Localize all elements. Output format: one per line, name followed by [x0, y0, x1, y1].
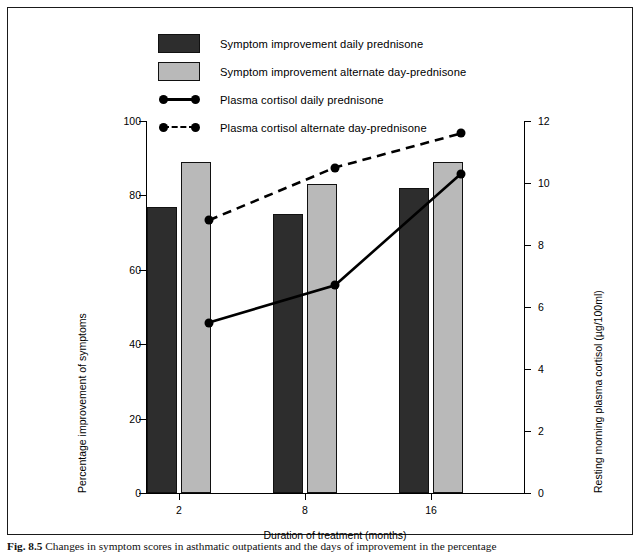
- y-axis-left-title: Percentage improvement of symptoms: [76, 313, 88, 493]
- light-bar-swatch-icon: [158, 62, 206, 81]
- y-axis-right-tick-label: 0: [538, 488, 578, 499]
- line-data-point: [205, 318, 214, 327]
- plot-area: 020406080100 024681012 2816 Duration of …: [146, 121, 524, 493]
- y-axis-right-tick: [524, 307, 531, 308]
- y-axis-right-tick: [524, 493, 531, 494]
- x-axis-tick-label: 16: [411, 505, 451, 516]
- x-axis-tick-label: 2: [159, 505, 199, 516]
- legend-item-symptom-alternate: Symptom improvement alternate day-predni…: [158, 60, 578, 83]
- figure-caption-text: Changes in symptom scores in asthmatic o…: [45, 540, 496, 552]
- x-axis-tick: [179, 493, 180, 500]
- y-axis-right-tick-label: 12: [538, 116, 578, 127]
- y-axis-right-tick-label: 8: [538, 240, 578, 251]
- line-series: [209, 174, 461, 323]
- dark-bar-swatch-icon: [158, 34, 206, 53]
- y-axis-right-tick-label: 6: [538, 302, 578, 313]
- line-data-point: [457, 169, 466, 178]
- y-axis-left-tick-label: 0: [101, 488, 141, 499]
- line-data-point: [331, 281, 340, 290]
- legend-label: Plasma cortisol daily prednisone: [220, 94, 384, 106]
- solid-line-marker-icon: [158, 90, 206, 109]
- line-series-container: [146, 121, 524, 493]
- y-axis-right-tick: [524, 369, 531, 370]
- x-axis-tick-label: 8: [285, 505, 325, 516]
- y-axis-right-tick-label: 4: [538, 364, 578, 375]
- figure-frame: Symptom improvement daily prednisone Sym…: [7, 7, 633, 535]
- figure-caption-label: Fig. 8.5: [7, 540, 42, 552]
- x-axis-tick: [305, 493, 306, 500]
- legend-label: Symptom improvement alternate day-predni…: [220, 66, 466, 78]
- y-axis-left-tick-label: 40: [101, 339, 141, 350]
- y-axis-right-tick: [524, 431, 531, 432]
- line-data-point: [457, 129, 466, 138]
- legend-label: Symptom improvement daily prednisone: [220, 38, 423, 50]
- x-axis-tick: [431, 493, 432, 500]
- y-axis-right-tick: [524, 121, 531, 122]
- y-axis-right-tick-label: 10: [538, 178, 578, 189]
- y-axis-right-title: Resting morning plasma cortisol (µg/100m…: [592, 290, 604, 493]
- y-axis-right-tick-label: 2: [538, 426, 578, 437]
- figure-caption: Fig. 8.5 Changes in symptom scores in as…: [7, 540, 633, 554]
- x-axis: [146, 493, 524, 494]
- y-axis-left-tick-label: 60: [101, 265, 141, 276]
- y-axis-left-tick-label: 80: [101, 190, 141, 201]
- line-data-point: [205, 216, 214, 225]
- y-axis-right-tick: [524, 245, 531, 246]
- legend-item-symptom-daily: Symptom improvement daily prednisone: [158, 32, 578, 55]
- y-axis-right-tick: [524, 183, 531, 184]
- legend-item-cortisol-daily: Plasma cortisol daily prednisone: [158, 88, 578, 111]
- y-axis-left-tick-label: 100: [101, 116, 141, 127]
- line-data-point: [331, 163, 340, 172]
- y-axis-left-tick-label: 20: [101, 414, 141, 425]
